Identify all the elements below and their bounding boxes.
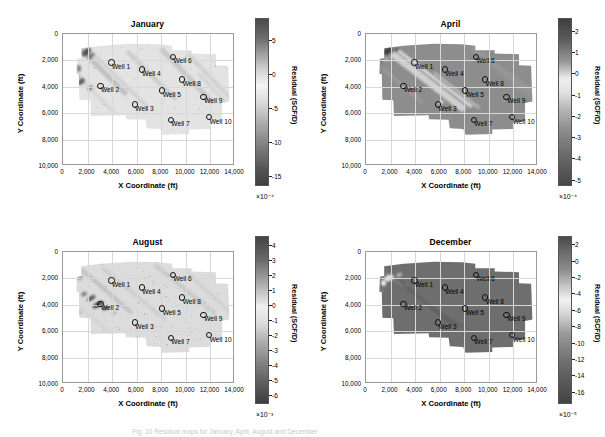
well-label: Well 9 [204,315,222,322]
field-speck [73,149,74,150]
field-speck [84,293,85,294]
well-label: Well 1 [112,63,130,70]
field-speck [396,127,397,128]
colorbar-tick-label: 3 [272,257,276,264]
field-speck [527,44,528,45]
residual-anomaly [380,289,383,293]
field-speck [503,117,504,118]
colorbar-title: Residual (SCF/D) [593,284,602,342]
field-speck [152,256,153,257]
field-speck [201,46,202,47]
y-tick-label: 4,000 [327,300,361,307]
field-speck [146,261,147,262]
field-speck [457,154,458,155]
field-speck [232,50,233,51]
well-label: Well 7 [474,120,492,127]
field-speck [401,257,402,258]
field-speck [147,129,148,130]
field-speck [228,284,229,285]
field-speck [189,263,190,264]
field-speck [494,122,495,123]
well-label: Well 10 [210,336,232,343]
colorbar-exponent: ×10⁻⁵ [559,411,577,419]
field-speck [125,41,126,42]
field-speck [122,360,123,361]
field-speck [188,367,189,368]
field-speck [393,71,394,72]
gridline-horizontal [366,305,536,306]
y-tick-label: 8,000 [327,353,361,360]
field-speck [164,44,165,45]
field-speck [396,317,397,318]
colorbar-tick-mark [269,142,272,143]
field-speck [67,354,68,355]
colorbar-tick-mark [269,305,272,306]
field-speck [217,293,218,294]
field-speck [230,312,231,313]
field-speck [432,89,433,90]
field-speck [377,379,378,380]
field-speck [479,155,480,156]
field-speck [127,288,128,289]
field-speck [459,50,460,51]
field-speck [177,379,178,380]
field-speck [67,258,68,259]
field-speck [118,329,119,330]
gridline-vertical [88,252,89,382]
field-speck [505,266,506,267]
colorbar-tick-mark [572,261,575,262]
colorbar-tick-label: -2 [575,112,581,119]
field-speck [189,51,190,52]
well-label: Well 3 [438,323,456,330]
field-speck [373,103,374,104]
field-speck [437,95,438,96]
gridline-vertical [161,34,162,164]
field-speck [77,341,78,342]
field-speck [205,355,206,356]
field-speck [138,302,139,303]
gridline-vertical [464,252,465,382]
field-speck [214,299,215,300]
field-speck [511,41,512,42]
field-speck [446,43,447,44]
gridline-horizontal [63,140,233,141]
field-speck [205,108,206,109]
field-speck [169,368,170,369]
colorbar-tick-mark [269,108,272,109]
field-speck [78,310,79,311]
field-speck [196,341,197,342]
colorbar-tick-label: 1 [272,287,276,294]
field-speck [132,297,133,298]
field-speck [194,62,195,63]
field-speck [392,310,393,311]
field-speck [82,296,83,297]
well-label: Well 2 [101,86,119,93]
field-speck [143,271,144,272]
field-speck [219,302,220,303]
colorbar-tick-mark [572,31,575,32]
field-speck [505,367,506,368]
colorbar-tick-mark [269,245,272,246]
well-label: Well 5 [163,91,181,98]
field-speck [515,306,516,307]
field-speck [402,310,403,311]
field-speck [84,130,85,131]
colorbar-tick-label: -10 [575,339,584,346]
colorbar-tick-label: -3 [575,134,581,141]
field-speck [197,137,198,138]
field-speck [152,361,153,362]
field-speck [66,68,67,69]
field-speck [208,367,209,368]
residual-maps-figure: January X Coordinate (ft) Y Coordinate (… [0,0,605,437]
well-label: Well 3 [135,105,153,112]
field-speck [199,339,200,340]
colorbar-tick-mark [572,158,575,159]
field-speck [156,132,157,133]
field-speck [74,375,75,376]
field-speck [134,372,135,373]
field-speck [523,150,524,151]
well-label: Well 1 [112,281,130,288]
field-speck [71,77,72,78]
colorbar-tick-label: -14 [575,372,584,379]
panel-august: August X Coordinate (ft) Y Coordinate (f… [0,218,302,436]
